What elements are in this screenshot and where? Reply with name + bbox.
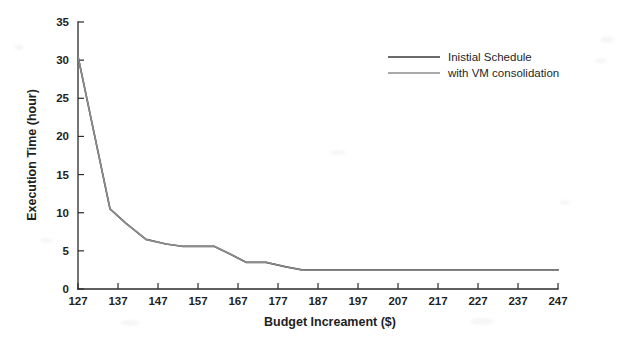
y-axis-tick-label: 0 (63, 283, 69, 295)
x-axis-tick-label: 157 (188, 295, 207, 307)
data-series-group (78, 56, 558, 270)
y-axis-tick-label: 35 (56, 16, 69, 28)
x-axis: 127137147157167177187197207217227237247 (68, 283, 567, 307)
legend-label-1: with VM consolidation (447, 67, 559, 79)
legend-label-0: Inistial Schedule (448, 51, 532, 63)
x-axis-tick-label: 177 (268, 295, 287, 307)
x-axis-tick-label: 187 (308, 295, 327, 307)
x-axis-tick-label: 127 (68, 295, 87, 307)
x-axis-tick-label: 237 (508, 295, 527, 307)
series-line-1 (78, 56, 558, 270)
y-axis-tick-label: 10 (56, 207, 69, 219)
y-axis-title: Execution Time (hour) (25, 89, 39, 221)
x-axis-tick-label: 147 (148, 295, 167, 307)
chart-figure: 05101520253035 1271371471571671771871972… (0, 0, 637, 340)
x-axis-tick-label: 227 (468, 295, 487, 307)
series-line-0 (78, 56, 558, 270)
x-axis-tick-label: 167 (228, 295, 247, 307)
x-axis-tick-label: 197 (348, 295, 367, 307)
line-chart: 05101520253035 1271371471571671771871972… (0, 0, 637, 340)
y-axis: 05101520253035 (56, 16, 84, 295)
chart-legend: Inistial Schedulewith VM consolidation (388, 51, 559, 79)
x-axis-tick-label: 247 (548, 295, 567, 307)
y-axis-tick-label: 20 (56, 130, 69, 142)
y-axis-tick-label: 5 (63, 245, 70, 257)
y-axis-tick-label: 25 (56, 92, 69, 104)
x-axis-tick-label: 217 (428, 295, 447, 307)
y-axis-tick-label: 30 (56, 54, 69, 66)
x-axis-tick-label: 137 (108, 295, 127, 307)
x-axis-tick-label: 207 (388, 295, 407, 307)
y-axis-tick-label: 15 (56, 169, 69, 181)
x-axis-title: Budget Increament ($) (264, 315, 396, 329)
